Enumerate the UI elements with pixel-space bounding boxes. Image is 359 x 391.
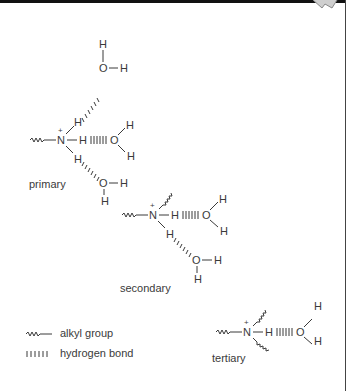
legend-wavy-symbol [26, 332, 52, 336]
svg-text:H: H [74, 116, 82, 128]
hydrogen-bond-hash [82, 162, 99, 181]
alkyl-wavy-bond [122, 213, 148, 217]
legend-alkyl-label: alkyl group [60, 327, 113, 339]
svg-text:H: H [219, 193, 227, 205]
svg-text:H: H [126, 119, 134, 131]
hydrogen-bond-hash [91, 136, 106, 144]
alkyl-wavy-bond [253, 338, 269, 351]
svg-text:O: O [202, 209, 211, 221]
secondary-label: secondary [120, 282, 171, 294]
alkyl-wavy-bond [30, 138, 56, 142]
svg-text:N: N [149, 209, 157, 221]
svg-text:O: O [296, 326, 305, 338]
amine-diagram: .bond { stroke:#3a3a3a; stroke-width:1; … [0, 0, 359, 391]
svg-text:H: H [166, 228, 174, 240]
svg-text:H: H [120, 177, 128, 189]
svg-text:O: O [99, 62, 108, 74]
svg-text:O: O [99, 177, 108, 189]
svg-text:O: O [192, 254, 201, 266]
tertiary-label: tertiary [212, 352, 246, 364]
svg-text:O: O [110, 134, 119, 146]
svg-text:H: H [265, 326, 273, 338]
svg-text:N: N [243, 326, 251, 338]
svg-text:H: H [120, 62, 128, 74]
svg-text:H: H [194, 273, 202, 285]
primary-label: primary [29, 178, 66, 190]
svg-text:+: + [244, 318, 249, 327]
alkyl-wavy-bond [159, 193, 172, 209]
tertiary-structure: N + H O H H [216, 300, 322, 351]
nitrogen-atom: N [57, 134, 65, 146]
positive-charge: + [58, 126, 63, 135]
alkyl-wavy-bond [216, 330, 242, 334]
legend-hash-symbol [27, 351, 47, 357]
svg-text:H: H [74, 153, 82, 165]
svg-text:H: H [101, 195, 109, 207]
hydrogen-bond-hash [277, 328, 292, 336]
svg-text:H: H [79, 134, 87, 146]
svg-text:+: + [150, 201, 155, 210]
svg-text:H: H [314, 335, 322, 347]
hydrogen-bond-hash [82, 98, 99, 122]
svg-text:H: H [127, 150, 135, 162]
svg-text:H: H [99, 38, 107, 50]
hydrogen-bond-hash [174, 238, 191, 257]
alkyl-wavy-bond [253, 310, 266, 326]
hydrogen-bond-hash [183, 211, 198, 219]
legend-hbond-label: hydrogen bond [60, 347, 133, 359]
svg-text:H: H [220, 225, 228, 237]
svg-text:H: H [314, 300, 322, 312]
secondary-structure: N + H O H H H O H H [122, 193, 228, 285]
svg-text:H: H [171, 209, 179, 221]
svg-text:H: H [214, 254, 222, 266]
